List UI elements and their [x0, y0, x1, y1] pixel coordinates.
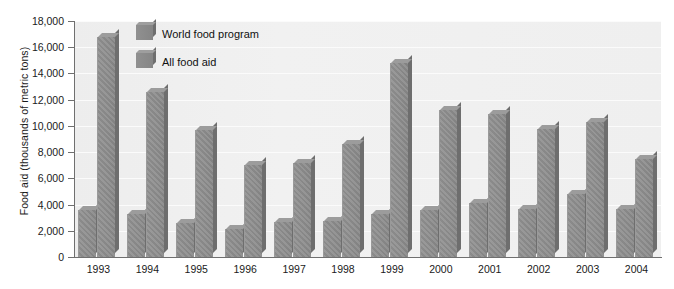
y-axis-tick: [68, 126, 74, 127]
x-axis-line: [74, 257, 662, 258]
y-axis-label: 2,000: [6, 225, 64, 237]
bar-group: [518, 21, 559, 257]
legend-swatch-icon: [136, 53, 153, 68]
bar-all-food-aid: [586, 122, 604, 257]
bar-all-food-aid: [97, 37, 115, 257]
y-axis-tick: [68, 257, 74, 258]
x-axis-label: 2004: [607, 263, 667, 275]
bar-all-food-aid: [146, 92, 164, 257]
bar-all-food-aid: [390, 63, 408, 257]
bar-group: [420, 21, 461, 257]
bar-world-food-program: [127, 214, 145, 257]
bar-all-food-aid: [488, 114, 506, 257]
y-axis-label: 6,000: [6, 172, 64, 184]
bar-world-food-program: [78, 210, 96, 257]
bar-group: [323, 21, 364, 257]
bar-world-food-program: [274, 222, 292, 257]
bar-world-food-program: [323, 221, 341, 257]
y-axis-tick: [68, 205, 74, 206]
bar-group: [371, 21, 412, 257]
bar-all-food-aid: [244, 165, 262, 257]
bar-world-food-program: [518, 209, 536, 258]
bar-all-food-aid: [342, 144, 360, 257]
bar-group: [78, 21, 119, 257]
bar-group: [274, 21, 315, 257]
y-axis-label: 12,000: [6, 94, 64, 106]
y-axis-tick: [68, 152, 74, 153]
legend-swatch-icon: [136, 25, 153, 40]
y-axis-label: 8,000: [6, 146, 64, 158]
y-axis-label: 14,000: [6, 67, 64, 79]
bar-world-food-program: [567, 194, 585, 257]
bar-world-food-program: [371, 214, 389, 257]
bar-group: [567, 21, 608, 257]
legend: World food program All food aid: [136, 22, 259, 78]
y-axis-label: 4,000: [6, 199, 64, 211]
bar-group: [469, 21, 510, 257]
y-axis-line: [74, 21, 75, 258]
y-axis-tick: [68, 100, 74, 101]
y-axis-label: 10,000: [6, 120, 64, 132]
y-axis-label: 16,000: [6, 41, 64, 53]
y-axis-tick: [68, 73, 74, 74]
y-axis-tick: [68, 47, 74, 48]
bar-group: [616, 21, 657, 257]
bar-all-food-aid: [635, 159, 653, 257]
bar-all-food-aid: [537, 129, 555, 257]
bar-chart: Food aid (thousands of metric tons) 18,0…: [0, 0, 674, 289]
bar-world-food-program: [225, 229, 243, 257]
bar-world-food-program: [176, 223, 194, 257]
legend-label: All food aid: [162, 56, 216, 68]
y-axis-label: 18,000: [6, 15, 64, 27]
legend-item-all-food-aid: All food aid: [136, 50, 259, 74]
y-axis-tick: [68, 21, 74, 22]
bar-world-food-program: [616, 209, 634, 257]
legend-item-world-food-program: World food program: [136, 22, 259, 46]
bar-all-food-aid: [293, 163, 311, 257]
bar-world-food-program: [420, 210, 438, 257]
y-axis-tick: [68, 178, 74, 179]
bar-all-food-aid: [439, 110, 457, 257]
bar-all-food-aid: [195, 130, 213, 257]
y-axis-tick: [68, 231, 74, 232]
bar-world-food-program: [469, 203, 487, 257]
legend-label: World food program: [162, 28, 259, 40]
y-axis-label: 0: [6, 251, 64, 263]
